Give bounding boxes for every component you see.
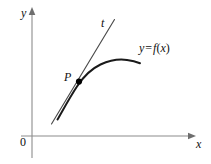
function-label-close-paren: ) — [166, 41, 170, 55]
x-axis-arrowhead-icon — [188, 133, 196, 140]
function-label: y=f(x) — [139, 42, 170, 54]
y-axis — [29, 7, 36, 158]
figure-canvas — [0, 0, 211, 164]
x-axis — [21, 133, 196, 140]
tangent-line — [52, 20, 115, 125]
function-curve — [58, 60, 141, 120]
point-p-label: P — [64, 71, 71, 83]
y-axis-label: y — [21, 7, 26, 19]
tangent-line-label: t — [101, 17, 104, 29]
x-axis-label: x — [196, 138, 201, 150]
function-label-equals: = — [144, 41, 153, 55]
point-p-marker — [76, 78, 82, 84]
origin-label: 0 — [20, 136, 26, 148]
y-axis-arrowhead-icon — [29, 7, 36, 15]
tangent-line-figure: y x 0 t P y=f(x) — [0, 0, 211, 164]
